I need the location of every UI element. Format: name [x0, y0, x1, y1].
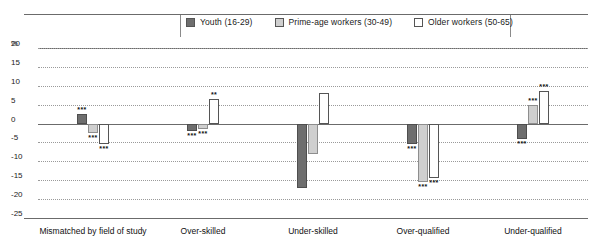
legend-item-label: Youth (16-29)	[200, 17, 253, 27]
bar[interactable]	[77, 114, 87, 123]
y-axis-tick-label: 0	[11, 115, 41, 124]
y-axis-tick-label: 20	[11, 39, 41, 48]
significance-marker: ***	[418, 183, 427, 190]
chart-legend: Youth (16-29)Prime-age workers (30-49)Ol…	[186, 17, 513, 27]
bar[interactable]	[198, 124, 208, 130]
y-axis-tick-label: 10	[11, 77, 41, 86]
x-axis-category-label: Under-qualified	[478, 226, 588, 236]
bar-group: *********	[478, 48, 588, 218]
bar-group-bars: ********	[148, 48, 258, 218]
legend-item-label: Prime-age workers (30-49)	[289, 17, 393, 27]
legend-swatch-icon	[186, 18, 195, 27]
significance-marker: ***	[407, 145, 416, 152]
bar[interactable]	[517, 124, 527, 139]
bar[interactable]	[407, 124, 417, 145]
legend-swatch-icon	[275, 18, 284, 27]
axis-bottom-line	[24, 218, 588, 219]
legend-item: Prime-age workers (30-49)	[275, 17, 393, 27]
plot-area: 20151050-5-10-15-20-25 *****************…	[38, 48, 588, 218]
x-axis-category-label: Mismatched by field of study	[38, 226, 148, 236]
chart-container: Youth (16-29)Prime-age workers (30-49)Ol…	[0, 0, 612, 248]
significance-marker: ***	[429, 179, 438, 186]
bar[interactable]	[187, 124, 197, 132]
bar-group-bars: *********	[368, 48, 478, 218]
legend-top-rule	[24, 14, 588, 15]
significance-marker: **	[211, 91, 217, 98]
legend-item: Older workers (50-65)	[414, 17, 513, 27]
bar-group: *********	[368, 48, 478, 218]
bar-group: *********	[38, 48, 148, 218]
y-axis-tick-label: 5	[11, 96, 41, 105]
legend-divider-left	[180, 15, 181, 37]
significance-marker: ***	[528, 97, 537, 104]
bar[interactable]	[99, 124, 109, 145]
bar[interactable]	[418, 124, 428, 183]
significance-marker: ***	[517, 140, 526, 147]
legend-item: Youth (16-29)	[186, 17, 253, 27]
significance-marker: ***	[539, 83, 548, 90]
significance-marker: ***	[88, 134, 97, 141]
bar[interactable]	[88, 124, 98, 133]
bar[interactable]	[528, 105, 538, 124]
y-axis-tick-label: -20	[11, 190, 41, 199]
bar[interactable]	[319, 93, 329, 123]
bar[interactable]	[297, 124, 307, 188]
bar[interactable]	[308, 124, 318, 154]
y-axis-tick-label: -5	[11, 133, 41, 142]
bar[interactable]	[429, 124, 439, 179]
bar-group-bars: *********	[478, 48, 588, 218]
significance-marker: ***	[187, 132, 196, 139]
x-axis-category-label: Over-qualified	[368, 226, 478, 236]
y-axis-tick-label: 15	[11, 58, 41, 67]
significance-marker: ***	[99, 145, 108, 152]
legend-item-label: Older workers (50-65)	[428, 17, 513, 27]
x-axis-labels: Mismatched by field of studyOver-skilled…	[38, 226, 588, 236]
x-axis-category-label: Under-skilled	[258, 226, 368, 236]
y-axis-tick-label: -10	[11, 152, 41, 161]
bar[interactable]	[209, 99, 219, 124]
bar[interactable]	[539, 91, 549, 123]
x-axis-category-label: Over-skilled	[148, 226, 258, 236]
y-axis-tick-label: -25	[11, 209, 41, 218]
bar-group: ********	[148, 48, 258, 218]
bar-groups: ***********************************	[38, 48, 588, 218]
bar-group	[258, 48, 368, 218]
significance-marker: ***	[198, 130, 207, 137]
bar-group-bars: *********	[38, 48, 148, 218]
legend-swatch-icon	[414, 18, 423, 27]
bar-group-bars	[258, 48, 368, 218]
significance-marker: ***	[77, 106, 86, 113]
y-axis-tick-label: -15	[11, 171, 41, 180]
